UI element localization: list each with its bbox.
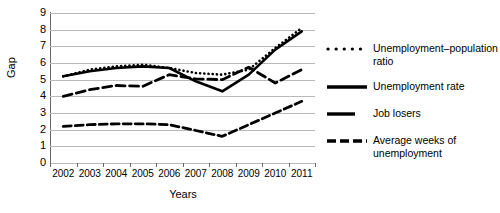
x-tick-mark bbox=[315, 163, 316, 167]
series-line bbox=[63, 67, 302, 96]
legend-label: Job losers bbox=[373, 107, 421, 120]
plot-area bbox=[50, 13, 315, 163]
chart-figure: Gap 0123456789 2002200320042005200620072… bbox=[0, 0, 500, 213]
x-tick-label: 2006 bbox=[158, 168, 180, 180]
y-tick-label: 7 bbox=[6, 40, 46, 51]
series-line bbox=[63, 31, 302, 91]
legend-label: Unemployment rate bbox=[373, 80, 465, 93]
y-tick-label: 9 bbox=[6, 7, 46, 18]
legend-label: Unemployment–population ratio bbox=[373, 42, 498, 67]
chart-legend: Unemployment–population ratioUnemploymen… bbox=[326, 42, 498, 172]
y-tick-label: 0 bbox=[6, 157, 46, 168]
legend-item: Average weeks of unemployment bbox=[326, 134, 498, 159]
x-tick-label: 2005 bbox=[132, 168, 154, 180]
x-tick-label: 2002 bbox=[52, 168, 74, 180]
x-tick-mark bbox=[262, 163, 263, 167]
x-tick-mark bbox=[130, 163, 131, 167]
legend-swatch-solid-short-icon bbox=[326, 107, 368, 121]
x-tick-label: 2007 bbox=[185, 168, 207, 180]
x-tick-mark bbox=[236, 163, 237, 167]
x-tick-mark bbox=[209, 163, 210, 167]
y-tick-label: 5 bbox=[6, 74, 46, 85]
x-tick-mark bbox=[156, 163, 157, 167]
legend-item: Unemployment rate bbox=[326, 80, 498, 94]
legend-item: Job losers bbox=[326, 107, 498, 121]
legend-label: Average weeks of unemployment bbox=[373, 134, 498, 159]
y-tick-label: 6 bbox=[6, 57, 46, 68]
x-tick-label: 2010 bbox=[264, 168, 286, 180]
x-tick-mark bbox=[289, 163, 290, 167]
series-line bbox=[63, 101, 302, 136]
y-axis-ticks: 0123456789 bbox=[0, 13, 46, 163]
x-tick-label: 2009 bbox=[238, 168, 260, 180]
x-tick-label: 2004 bbox=[105, 168, 127, 180]
legend-swatch-dotted-icon bbox=[326, 42, 368, 56]
y-tick-label: 3 bbox=[6, 107, 46, 118]
x-tick-mark bbox=[50, 163, 51, 167]
x-tick-label: 2003 bbox=[79, 168, 101, 180]
y-tick-label: 8 bbox=[6, 24, 46, 35]
x-tick-mark bbox=[77, 163, 78, 167]
x-axis-title: Years bbox=[50, 188, 316, 200]
x-tick-label: 2011 bbox=[291, 168, 313, 180]
legend-item: Unemployment–population ratio bbox=[326, 42, 498, 67]
x-tick-label: 2008 bbox=[211, 168, 233, 180]
legend-swatch-solid-icon bbox=[326, 80, 368, 94]
x-tick-mark bbox=[103, 163, 104, 167]
y-tick-label: 4 bbox=[6, 90, 46, 101]
x-tick-mark bbox=[183, 163, 184, 167]
legend-swatch-dashed-icon bbox=[326, 134, 368, 148]
series-layer bbox=[50, 13, 315, 163]
x-axis-ticks: 2002200320042005200620072008200920102011 bbox=[50, 168, 316, 182]
y-tick-label: 2 bbox=[6, 124, 46, 135]
y-tick-label: 1 bbox=[6, 140, 46, 151]
